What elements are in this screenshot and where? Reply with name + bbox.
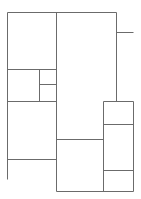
floor-plan-diagram: [0, 0, 141, 199]
